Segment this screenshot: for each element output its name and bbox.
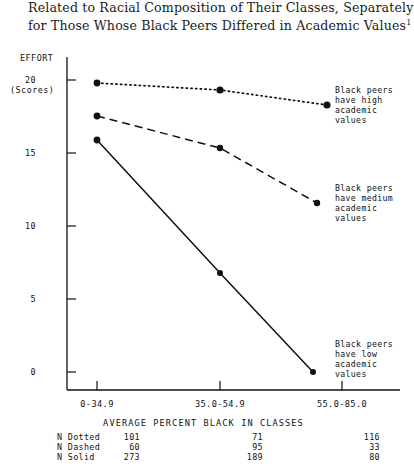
n-table-row-dotted-value-1: 71 (203, 432, 263, 442)
y-tick-label-5: 5 (14, 294, 36, 304)
y-tick-label-15: 15 (14, 148, 36, 158)
series-line-solid (97, 140, 313, 372)
annotation-high: Black peers have high academic values (335, 86, 393, 126)
annotation-medium-line-4: values (335, 214, 393, 224)
n-table-row-dashed-value-0: 60 (80, 442, 140, 452)
n-table-row-dotted-value-2: 116 (320, 432, 380, 442)
n-table-row-dotted-value-0: 101 (80, 432, 140, 442)
n-table-row-dashed: N Dashed 60 95 33 (0, 442, 407, 452)
x-axis-title: AVERAGE PERCENT BLACK IN CLASSES (0, 418, 407, 428)
y-tick-label-0: 0 (14, 367, 36, 377)
annotation-low-line-4: values (335, 370, 393, 380)
series-point-dotted-1 (216, 86, 223, 93)
n-table-row-dashed-value-2: 33 (320, 442, 380, 452)
n-table-row-solid-value-2: 80 (320, 452, 380, 462)
series-line-dashed (97, 116, 317, 203)
n-table-row-solid-value-1: 189 (203, 452, 263, 462)
annotation-high-line-4: values (335, 116, 393, 126)
n-table-row-dashed-value-1: 95 (203, 442, 263, 452)
series-point-dashed-2 (314, 200, 320, 206)
x-tick-label-1: 35.0-54.9 (175, 399, 265, 409)
n-table-row-solid: N Solid 273 189 80 (0, 452, 407, 462)
annotation-medium: Black peers have medium academic values (335, 184, 393, 224)
series-point-dotted-0 (94, 80, 101, 87)
series-point-solid-0 (94, 137, 101, 144)
n-table-row-dotted: N Dotted 101 71 116 (0, 432, 407, 442)
series-point-dashed-0 (94, 113, 101, 120)
series-line-dotted (97, 83, 327, 105)
annotation-low: Black peers have low academic values (335, 340, 393, 380)
x-tick-label-0: 0-34.9 (52, 399, 142, 409)
n-table-row-solid-value-0: 273 (80, 452, 140, 462)
series-point-solid-1 (217, 270, 223, 276)
n-table: N Dotted 101 71 116 N Dashed 60 95 33 N … (0, 432, 407, 463)
series-point-dashed-1 (217, 145, 223, 151)
x-tick-label-2: 55.0-85.0 (297, 399, 387, 409)
series-point-solid-2 (310, 369, 316, 375)
series-point-dotted-2 (323, 101, 330, 108)
y-tick-label-20: 20 (14, 75, 36, 85)
y-tick-label-10: 10 (14, 221, 36, 231)
